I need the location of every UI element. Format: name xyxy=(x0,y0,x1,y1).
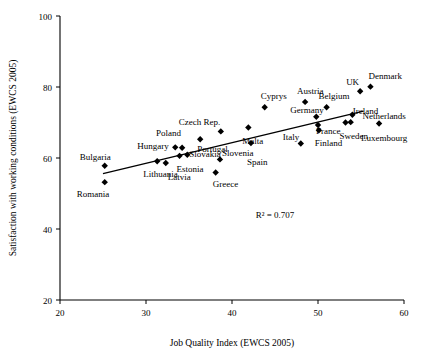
data-point-marker xyxy=(245,124,251,130)
chart-canvas: 203040506020406080100Job Quality Index (… xyxy=(0,0,424,360)
x-tick-label: 60 xyxy=(400,308,410,318)
data-point-label: Hungary xyxy=(137,141,169,151)
data-point-marker xyxy=(102,163,108,169)
data-point-label: Bulgaria xyxy=(80,152,111,162)
data-point-label: France xyxy=(316,126,341,136)
x-axis-title: Job Quality Index (EWCS 2005) xyxy=(170,338,295,349)
data-point-label: Luxembourg xyxy=(361,133,408,143)
x-tick-label: 30 xyxy=(142,308,152,318)
data-point-marker xyxy=(172,144,178,150)
data-point-marker xyxy=(367,83,373,89)
data-point-label: Belgium xyxy=(319,91,350,101)
data-point-label: Netherlands xyxy=(362,111,406,121)
data-point-label: Italy xyxy=(283,132,300,142)
data-point-marker xyxy=(154,158,160,164)
data-point-marker xyxy=(342,119,348,125)
data-point-marker xyxy=(179,145,185,151)
data-point-marker xyxy=(261,104,267,110)
y-tick-label: 100 xyxy=(39,12,53,22)
data-point-marker xyxy=(347,119,353,125)
data-point-label: Denmark xyxy=(368,71,402,81)
data-point-label: Poland xyxy=(156,128,182,138)
data-point-marker xyxy=(102,179,108,185)
data-point-marker xyxy=(212,169,218,175)
data-point-label: UK xyxy=(346,77,359,87)
y-tick-label: 20 xyxy=(43,296,53,306)
data-point-label: Spain xyxy=(247,157,268,167)
data-point-marker xyxy=(218,128,224,134)
data-point-marker xyxy=(323,104,329,110)
data-point-marker xyxy=(163,160,169,166)
r-squared-annotation: R² = 0.707 xyxy=(256,210,295,220)
data-point-marker xyxy=(197,136,203,142)
data-point-label: Estonia xyxy=(177,164,204,174)
data-point-label: Romania xyxy=(77,189,110,199)
data-point-label: Malta xyxy=(242,136,263,146)
y-tick-label: 60 xyxy=(43,154,53,164)
y-tick-label: 40 xyxy=(43,225,53,235)
x-tick-label: 50 xyxy=(314,308,324,318)
data-point-label: Greece xyxy=(213,179,238,189)
y-tick-label: 80 xyxy=(43,83,53,93)
y-axis-title: Satisfaction with working conditions (EW… xyxy=(8,60,19,257)
data-point-marker xyxy=(376,120,382,126)
data-point-marker xyxy=(176,153,182,159)
scatter-chart: 203040506020406080100Job Quality Index (… xyxy=(0,0,424,360)
data-point-label: Czech Rep. xyxy=(179,117,220,127)
data-point-label: Germany xyxy=(290,105,324,115)
data-point-marker xyxy=(357,88,363,94)
x-tick-label: 40 xyxy=(228,308,238,318)
data-point-label: Cyprys xyxy=(261,91,288,101)
x-tick-label: 20 xyxy=(56,308,66,318)
